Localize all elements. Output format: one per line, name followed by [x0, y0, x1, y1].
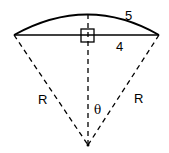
arc-label: 5 [125, 8, 132, 23]
center-point [87, 144, 90, 147]
radius-left [14, 35, 88, 145]
angle-label: θ [94, 103, 101, 117]
chord-label: 4 [116, 39, 123, 54]
arc [14, 15, 159, 36]
radius-right-label: R [134, 91, 143, 106]
sector-diagram: 5 4 R R θ [0, 0, 169, 153]
radius-right [88, 35, 159, 145]
radius-left-label: R [38, 92, 47, 107]
